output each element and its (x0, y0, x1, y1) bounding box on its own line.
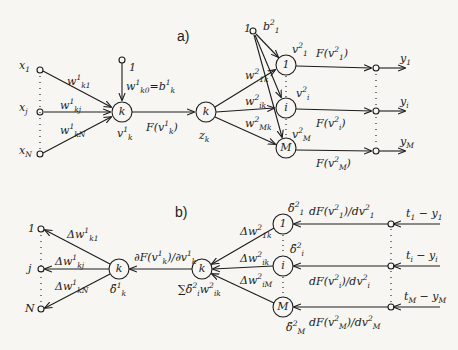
input-xN-label: xN (19, 145, 32, 156)
error-t1-y1-label: t1 − y1 (406, 208, 442, 219)
hidden-node-k: k (112, 102, 132, 122)
node1-delta-label: δ̃1k (110, 284, 126, 295)
backprop-node1-k: k (109, 259, 129, 279)
weight-wMk2-label: w2Mk (245, 118, 271, 129)
input-x1-label: x1 (19, 60, 30, 71)
output-deriv-M-label: dF(v2M)/dv2M (309, 317, 380, 328)
weight-w1k2-label: w21k (245, 70, 269, 81)
delta-w2-1k-label: Δw21k (240, 226, 271, 237)
output-sum-vi-label: v2i (296, 88, 309, 99)
output-deriv-1-label: dF(v21)/dv21 (309, 206, 375, 217)
left-terminal-j: j (28, 263, 31, 274)
delta-w-kj-label: Δw1kj (55, 256, 84, 267)
hidden-sum-vk1-label: v1k (117, 128, 133, 139)
delta-w2-ik-label: Δw2ik (240, 253, 269, 264)
delta-w2-iM-label: Δw2iM (240, 275, 272, 286)
delta-w-k1-label: Δw1k1 (67, 229, 98, 240)
node2-sum-label: ∑δ̃2iw2ik (178, 284, 221, 295)
left-terminal-1: 1 (28, 223, 35, 234)
input-xj-label: xj (19, 102, 28, 113)
derivative-dF-dv1-label: ∂F(v1k)/∂v1k (134, 252, 196, 263)
output-deriv-i-label: dF(v2i)/dv2i (309, 276, 370, 287)
backprop-output-node-1: 1 (273, 214, 293, 234)
bias1-weight-label: w1k0=b1k (126, 81, 175, 92)
error-ti-yi-label: ti − yi (406, 250, 438, 261)
output-node-M: M (276, 138, 296, 158)
output-node-i: i (276, 98, 296, 118)
weight-wkj-label: w1kj (60, 100, 81, 111)
hidden-out-node-k: k (196, 102, 216, 122)
delta-w-kN-label: Δw1kN (55, 281, 88, 292)
output-sum-vM-label: v2M (292, 129, 311, 140)
diagram-graphics (0, 0, 458, 350)
backprop-node2-k: k (192, 259, 212, 279)
part-b-label: b) (175, 204, 187, 220)
output-act-F-vM-label: F(v2M) (316, 158, 351, 169)
output-act-F-v1-label: F(v21) (316, 48, 348, 59)
weight-wik2-label: w2ik (245, 96, 266, 107)
output-delta-M-label: δ̃2M (286, 322, 305, 333)
output-y1-label: y1 (400, 53, 411, 64)
error-tM-yM-label: tM − yM (404, 291, 446, 302)
output-sum-v1-label: v21 (292, 44, 308, 55)
output-node-1: 1 (276, 55, 296, 75)
backprop-output-node-M: M (273, 297, 293, 317)
activation-F-vk1-label: F(v1k) (146, 122, 178, 133)
bias2-b12-label: b21 (263, 21, 280, 32)
weight-wk1-label: w1k1 (67, 76, 91, 87)
left-terminal-N: N (25, 303, 35, 314)
output-yi-label: yi (400, 96, 409, 107)
hidden-out-zk-label: zk (199, 130, 209, 141)
backprop-output-node-i: i (273, 256, 293, 276)
output-delta-i-label: δ̃2i (290, 244, 304, 255)
weight-wkN-label: w1kN (60, 125, 85, 136)
output-delta-1-label: δ̃21 (288, 203, 304, 214)
output-yM-label: yM (400, 136, 414, 147)
backprop-diagram: a) x1 xj xN w1k1 w1kj w1kN 1 w1k0=b1k k … (0, 0, 458, 350)
bias2-node-label: 1 (244, 23, 251, 34)
part-a-label: a) (177, 28, 189, 44)
bias1-node-label: 1 (129, 62, 136, 73)
output-act-F-vi-label: F(v2i) (316, 118, 346, 129)
part-a-edges (40, 34, 405, 153)
